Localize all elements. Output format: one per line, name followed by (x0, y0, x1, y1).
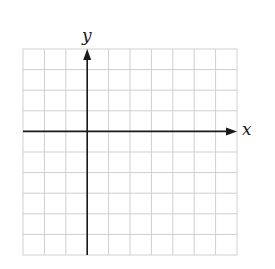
x-axis-label: x (242, 121, 252, 138)
coordinate-grid (0, 0, 275, 269)
y-axis-arrow-icon (83, 49, 91, 60)
grid-lines (23, 49, 237, 255)
x-axis-arrow-icon (226, 127, 237, 135)
y-axis-label: y (82, 27, 92, 44)
